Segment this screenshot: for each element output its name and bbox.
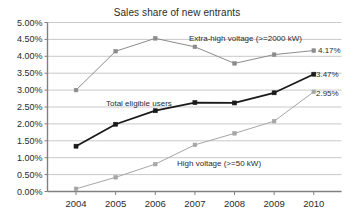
data-point-marker — [272, 53, 276, 57]
x-tick-label: 2007 — [184, 198, 205, 209]
y-tick-label: 3.50% — [2, 68, 43, 78]
data-point-marker — [153, 162, 157, 166]
series-name-label: Total eligible users — [106, 99, 172, 108]
chart-container: Sales share of new entrants 0.00%0.50%1.… — [0, 0, 354, 216]
y-tick-label: 2.00% — [2, 119, 43, 129]
y-tick-label: 4.00% — [2, 51, 43, 61]
x-tick-label: 2008 — [224, 198, 245, 209]
data-point-marker — [233, 62, 237, 66]
data-point-marker — [74, 187, 78, 191]
data-point-marker — [233, 101, 237, 105]
data-value-label: 4.17% — [318, 46, 341, 55]
chart-plot-area — [0, 0, 354, 216]
y-tick-label: 4.50% — [2, 34, 43, 44]
data-value-label: 3.47% — [316, 70, 339, 79]
y-tick-label: 3.00% — [2, 85, 43, 95]
series-name-label: Extra-high voltage (>=2000 kW) — [189, 34, 302, 43]
y-tick-label: 0.50% — [2, 170, 43, 180]
data-point-marker — [312, 49, 316, 53]
data-point-marker — [114, 176, 118, 180]
x-tick-label: 2010 — [303, 198, 324, 209]
data-point-marker — [272, 91, 276, 95]
x-tick-label: 2009 — [264, 198, 285, 209]
data-point-marker — [114, 49, 118, 53]
x-tick-label: 2005 — [105, 198, 126, 209]
data-point-marker — [193, 45, 197, 49]
data-point-marker — [153, 37, 157, 41]
series-line-1 — [76, 74, 314, 146]
x-tick-label: 2006 — [145, 198, 166, 209]
data-point-marker — [74, 88, 78, 92]
data-point-marker — [114, 122, 118, 126]
y-tick-label: 5.00% — [2, 18, 43, 28]
data-point-marker — [153, 109, 157, 113]
y-tick-label: 1.00% — [2, 153, 43, 163]
series-name-label: High voltage (>=50 kW) — [177, 159, 261, 168]
data-value-label: 2.95% — [316, 89, 339, 98]
y-tick-label: 2.50% — [2, 102, 43, 112]
data-point-marker — [193, 101, 197, 105]
data-point-marker — [233, 132, 237, 136]
x-tick-label: 2004 — [65, 198, 86, 209]
data-point-marker — [74, 144, 78, 148]
data-point-marker — [272, 119, 276, 123]
y-tick-label: 1.50% — [2, 136, 43, 146]
data-point-marker — [193, 143, 197, 147]
y-tick-label: 0.00% — [2, 187, 43, 197]
